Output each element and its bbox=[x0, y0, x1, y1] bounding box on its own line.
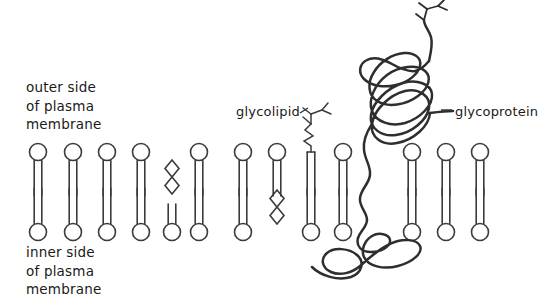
phospholipid bbox=[235, 144, 252, 197]
phospholipid bbox=[191, 188, 208, 241]
phospholipid bbox=[164, 204, 181, 241]
phospholipid bbox=[335, 188, 352, 241]
label-glycoprotein: glycoprotein bbox=[455, 103, 538, 122]
glycolipid-molecule bbox=[303, 103, 331, 196]
phospholipid bbox=[30, 188, 47, 241]
phospholipid bbox=[404, 188, 421, 241]
phospholipid bbox=[404, 144, 421, 197]
label-outer-side-line1: outer side bbox=[26, 78, 101, 97]
membrane-diagram-canvas: outer side of plasma membrane inner side… bbox=[0, 0, 556, 308]
phospholipid bbox=[472, 144, 489, 197]
phospholipid bbox=[30, 144, 47, 197]
phospholipid bbox=[438, 144, 455, 197]
phospholipid bbox=[99, 188, 116, 241]
sugar-branch bbox=[416, 0, 447, 20]
label-inner-side-line1: inner side bbox=[26, 243, 101, 262]
glycoprotein-molecule bbox=[312, 0, 453, 278]
cholesterol bbox=[270, 190, 284, 224]
phospholipid bbox=[133, 188, 150, 241]
label-glycolipid: glycolipid bbox=[236, 103, 300, 122]
label-inner-side-line2: of plasma bbox=[26, 262, 101, 281]
phospholipid bbox=[472, 188, 489, 241]
phospholipid bbox=[191, 144, 208, 197]
label-outer-side-line3: membrane bbox=[26, 115, 101, 134]
phospholipid bbox=[99, 144, 116, 197]
label-outer-side-line2: of plasma bbox=[26, 97, 101, 116]
label-inner-side-line3: membrane bbox=[26, 280, 101, 299]
inner-leaflet-group bbox=[30, 188, 489, 241]
phospholipid bbox=[65, 188, 82, 241]
phospholipid bbox=[335, 144, 352, 197]
phospholipid bbox=[438, 188, 455, 241]
phospholipid bbox=[65, 144, 82, 197]
phospholipid bbox=[269, 144, 286, 197]
label-outer-side: outer side of plasma membrane bbox=[26, 78, 101, 134]
cholesterol bbox=[165, 160, 179, 194]
phospholipid bbox=[303, 188, 320, 241]
phospholipid bbox=[133, 144, 150, 197]
label-inner-side: inner side of plasma membrane bbox=[26, 243, 101, 299]
phospholipid bbox=[235, 188, 252, 241]
